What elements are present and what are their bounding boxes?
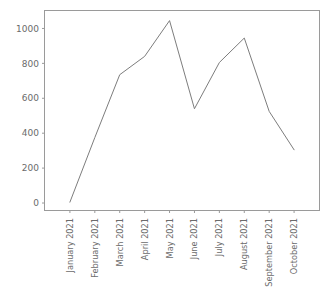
x-tick-label: August 2021 bbox=[239, 218, 249, 270]
y-tick-label: 600 bbox=[22, 93, 39, 103]
x-tick-label: October 2021 bbox=[289, 218, 299, 274]
y-tick-label: 400 bbox=[22, 128, 39, 138]
y-tick-label: 1000 bbox=[16, 24, 39, 34]
x-tick-label: May 2021 bbox=[165, 218, 175, 258]
x-tick-label: July 2021 bbox=[214, 218, 224, 257]
y-tick-label: 200 bbox=[22, 163, 39, 173]
x-tick-label: March 2021 bbox=[115, 218, 125, 266]
y-tick-label: 0 bbox=[33, 198, 39, 208]
x-tick-label: June 2021 bbox=[189, 218, 199, 260]
x-tick-label: February 2021 bbox=[90, 218, 100, 278]
chart-figure: 02004006008001000 January 2021February 2… bbox=[0, 0, 328, 297]
line-chart-canvas: 02004006008001000 January 2021February 2… bbox=[0, 0, 328, 297]
x-tick-label: September 2021 bbox=[264, 218, 274, 287]
x-tick-label: January 2021 bbox=[65, 218, 75, 273]
x-tick-label: April 2021 bbox=[140, 218, 150, 260]
y-tick-label: 800 bbox=[22, 59, 39, 69]
